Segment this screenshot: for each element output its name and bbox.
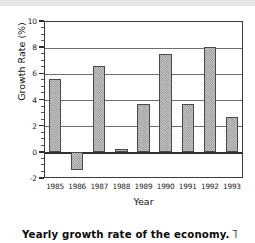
x-axis-tick-label: 1989 <box>135 182 153 191</box>
x-axis-tick-label: 1991 <box>179 182 197 191</box>
bar <box>115 149 127 152</box>
caption-bold-text: Yearly growth rate of the economy. <box>22 229 230 240</box>
bar-series <box>44 21 243 178</box>
y-axis-tick-label: 0 <box>32 147 37 156</box>
x-axis-tick-label: 1988 <box>112 182 130 191</box>
y-axis-tick-label: 4 <box>32 95 37 104</box>
bar <box>204 47 216 152</box>
bar <box>182 104 194 152</box>
caption-continuation-text: This <box>233 229 237 240</box>
bar <box>137 104 149 152</box>
x-axis-tick-label: 1986 <box>68 182 86 191</box>
bar-chart-figure: Growth Rate (%) 1086420-2 Year 198519861… <box>0 0 255 212</box>
x-axis-tick-label: 1992 <box>201 182 219 191</box>
bar <box>226 117 238 152</box>
x-axis-tick-label: 1985 <box>46 182 64 191</box>
y-axis-tick-label: -2 <box>30 174 37 183</box>
y-axis: Growth Rate (%) 1086420-2 <box>0 0 44 212</box>
y-axis-tick-label: 6 <box>32 69 37 78</box>
x-axis-tick-label: 1990 <box>157 182 175 191</box>
figure-caption: Yearly growth rate of the economy. This <box>22 229 237 240</box>
y-axis-title: Growth Rate (%) <box>16 0 27 127</box>
y-axis-tick-label: 10 <box>28 17 37 26</box>
bar <box>49 79 61 152</box>
y-axis-tick-label: 8 <box>32 43 37 52</box>
bar <box>71 152 83 170</box>
x-axis-tick-label: 1987 <box>90 182 108 191</box>
y-axis-tick-label: 2 <box>32 121 37 130</box>
bar <box>93 66 105 152</box>
bar <box>159 54 171 151</box>
x-axis-tick-label: 1993 <box>223 182 241 191</box>
x-axis-title: Year <box>44 196 243 207</box>
